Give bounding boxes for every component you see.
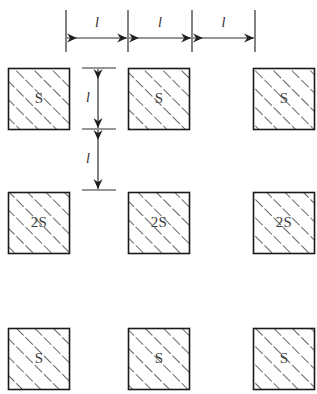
block-label: S — [155, 350, 164, 366]
block-r2c1: 2S — [8, 192, 70, 254]
block-r3c2: S — [128, 328, 190, 390]
block-label: 2S — [276, 214, 292, 230]
block-label: S — [35, 90, 44, 106]
block-r1c1: S — [8, 68, 70, 130]
block-r3c3: S — [253, 328, 315, 390]
v-dimension-label-v2: l — [86, 151, 90, 166]
diagram-canvas: SSS2S2S2SSSS lll ll — [0, 0, 317, 394]
block-label: 2S — [151, 214, 167, 230]
block-label: S — [280, 350, 289, 366]
block-r2c2: 2S — [128, 192, 190, 254]
block-r2c3: 2S — [253, 192, 315, 254]
block-label: S — [280, 90, 289, 106]
block-layout-diagram: SSS2S2S2SSSS lll ll — [0, 0, 317, 394]
block-r1c3: S — [253, 68, 315, 130]
block-label: S — [155, 90, 164, 106]
h-dimension-label-h3: l — [222, 15, 226, 30]
h-dimension-label-h1: l — [95, 15, 99, 30]
block-r3c1: S — [8, 328, 70, 390]
block-label: 2S — [31, 214, 47, 230]
block-label: S — [35, 350, 44, 366]
h-dimension-label-h2: l — [158, 15, 162, 30]
v-dimension-label-v1: l — [86, 90, 90, 105]
block-r1c2: S — [128, 68, 190, 130]
blocks-layer: SSS2S2S2SSSS — [8, 68, 315, 390]
